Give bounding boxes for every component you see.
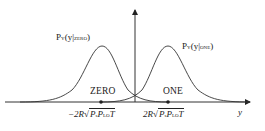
mean-dot-zero xyxy=(99,100,103,104)
diagram-canvas xyxy=(0,0,265,131)
formula-prefix: 2R xyxy=(143,109,153,119)
formula-lo: LO xyxy=(103,113,110,118)
formula-t: T xyxy=(179,109,184,119)
label-arg: (y| xyxy=(65,32,74,42)
formula-t: T xyxy=(110,109,115,119)
symbol-one-label: ONE xyxy=(163,87,183,97)
label-condition: ONE xyxy=(200,45,210,50)
label-arg: (y| xyxy=(191,41,200,51)
label-pdf-one: PY(y|ONE) xyxy=(182,42,213,51)
mean-formula-one: 2R√PsPLOT xyxy=(143,110,184,119)
label-close: ) xyxy=(87,32,90,42)
formula-prefix: −2R xyxy=(68,109,84,119)
label-pdf-zero: PY(y|ZERO) xyxy=(56,33,90,42)
mean-dot-one xyxy=(166,100,170,104)
formula-lo: LO xyxy=(172,113,179,118)
x-axis-label: y xyxy=(238,108,242,117)
symbol-zero-label: ZERO xyxy=(90,87,116,97)
mean-formula-zero: −2R√PsPLOT xyxy=(68,110,115,119)
label-condition: ZERO xyxy=(74,36,87,41)
label-close: ) xyxy=(210,41,213,51)
